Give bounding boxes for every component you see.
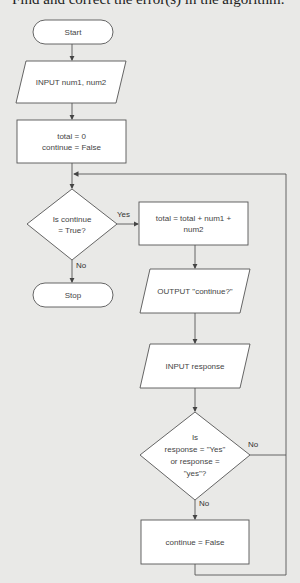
decision2-line3: or response = [170, 456, 219, 468]
output-continue-label: OUTPUT "continue?" [140, 269, 250, 313]
edge-label-no-down: No [199, 499, 209, 508]
init-label: total = 0 continue = False [17, 120, 126, 163]
add-total-line1: total = total + num1 + [156, 213, 231, 224]
continue-decision-label: Is continue = True? [27, 189, 117, 260]
edge-label-no-stop: No [76, 261, 86, 270]
add-total-label: total = total + num1 + num2 [139, 202, 248, 245]
stop-label: Stop [33, 283, 113, 307]
decision2-line2: response = "Yes" [165, 444, 226, 456]
edge-label-no-right: No [248, 440, 258, 449]
response-decision-label: Is response = "Yes" or response = "yes"? [140, 412, 250, 500]
set-false-label: continue = False [141, 520, 249, 564]
input-response-label: INPUT response [140, 344, 250, 388]
edge-label-yes: Yes [117, 210, 130, 219]
decision2-line4: "yes"? [184, 468, 207, 480]
decision1-line1: Is continue [53, 214, 92, 225]
input-nums-label: INPUT num1, num2 [16, 61, 126, 103]
add-total-line2: num2 [183, 224, 203, 235]
init-line2: continue = False [42, 142, 101, 153]
decision1-line2: = True? [58, 225, 85, 236]
decision2-line1: Is [192, 432, 198, 444]
start-label: Start [33, 20, 113, 44]
init-line1: total = 0 [57, 131, 86, 142]
